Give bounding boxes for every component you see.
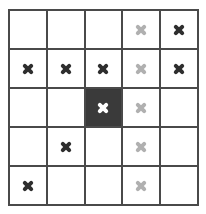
- board-cell-r2-c2[interactable]: [48, 50, 84, 87]
- dark-x-mark-icon: [173, 24, 185, 36]
- board-cell-r4-c3[interactable]: [86, 128, 122, 165]
- light-x-mark-icon: [135, 24, 147, 36]
- dark-x-mark-icon: [60, 141, 72, 153]
- board-cell-r3-c5[interactable]: [161, 89, 197, 126]
- board-cell-r3-c3[interactable]: [86, 89, 122, 126]
- light-x-mark-icon: [135, 141, 147, 153]
- board-cell-r5-c2[interactable]: [48, 167, 84, 204]
- dark-x-mark-icon: [60, 63, 72, 75]
- board-cell-r2-c4[interactable]: [123, 50, 159, 87]
- board-cell-r4-c1[interactable]: [10, 128, 46, 165]
- board-cell-r1-c5[interactable]: [161, 11, 197, 48]
- board-cell-r4-c5[interactable]: [161, 128, 197, 165]
- light-x-mark-icon: [135, 63, 147, 75]
- board-cell-r1-c2[interactable]: [48, 11, 84, 48]
- board-cell-r1-c3[interactable]: [86, 11, 122, 48]
- board-cell-r3-c2[interactable]: [48, 89, 84, 126]
- dark-x-mark-icon: [22, 63, 34, 75]
- board-cell-r4-c2[interactable]: [48, 128, 84, 165]
- board-cell-r3-c1[interactable]: [10, 89, 46, 126]
- board-cell-r2-c5[interactable]: [161, 50, 197, 87]
- board-cell-r2-c3[interactable]: [86, 50, 122, 87]
- game-board: [8, 9, 199, 206]
- board-cell-r1-c1[interactable]: [10, 11, 46, 48]
- board-cell-r5-c3[interactable]: [86, 167, 122, 204]
- board-cell-r3-c4[interactable]: [123, 89, 159, 126]
- board-cell-r5-c5[interactable]: [161, 167, 197, 204]
- light-x-mark-icon: [135, 180, 147, 192]
- board-cell-r4-c4[interactable]: [123, 128, 159, 165]
- board-cell-r1-c4[interactable]: [123, 11, 159, 48]
- dark-x-mark-icon: [173, 63, 185, 75]
- board-cell-r2-c1[interactable]: [10, 50, 46, 87]
- board-cell-r5-c4[interactable]: [123, 167, 159, 204]
- board-cell-r5-c1[interactable]: [10, 167, 46, 204]
- white-x-mark-icon: [97, 102, 109, 114]
- dark-x-mark-icon: [97, 63, 109, 75]
- light-x-mark-icon: [135, 102, 147, 114]
- dark-x-mark-icon: [22, 180, 34, 192]
